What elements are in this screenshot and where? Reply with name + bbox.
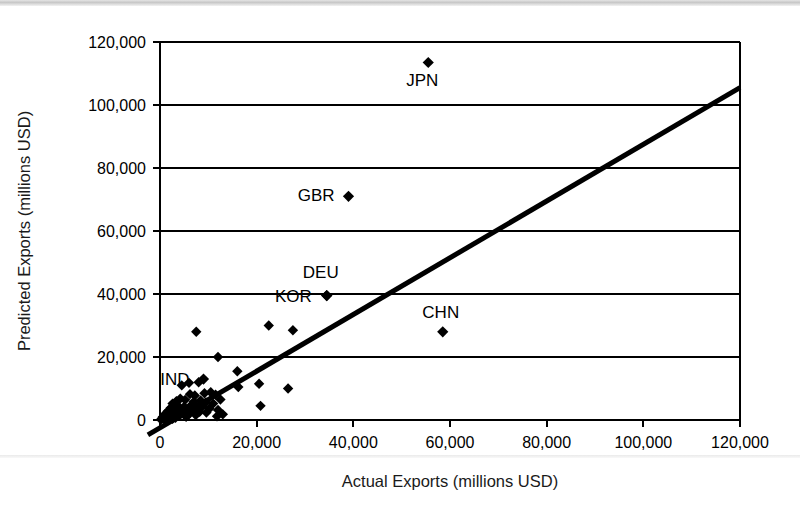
- axis-ticks: [153, 42, 740, 427]
- data-point-marker: [191, 327, 201, 337]
- point-label-jpn: JPN: [406, 71, 438, 90]
- data-point-marker: [264, 320, 274, 330]
- y-tick-label: 100,000: [88, 97, 146, 114]
- y-tick-label: 0: [137, 412, 146, 429]
- y-tick-label: 20,000: [97, 349, 146, 366]
- x-tick-label: 0: [156, 434, 165, 451]
- point-label-kor: KOR: [275, 287, 312, 306]
- regression-trendline: [148, 88, 740, 435]
- data-point-marker: [288, 325, 298, 335]
- y-tick-label: 40,000: [97, 286, 146, 303]
- x-tick-label: 100,000: [614, 434, 672, 451]
- y-axis-title: Predicted Exports (millions USD): [15, 111, 33, 351]
- data-point-marker: [213, 352, 223, 362]
- x-tick-label: 20,000: [232, 434, 281, 451]
- point-label-deu: DEU: [303, 263, 339, 282]
- point-label-ind: IND: [160, 370, 189, 389]
- scan-artifact-bottom: [0, 455, 800, 458]
- y-tick-label: 60,000: [97, 223, 146, 240]
- x-tick-label: 120,000: [711, 434, 769, 451]
- y-tick-label: 120,000: [88, 34, 146, 51]
- data-point-marker: [423, 57, 434, 68]
- data-point-marker: [321, 290, 332, 301]
- chart-canvas: JPNGBRDEUKORCHNIND 020,00040,00060,00080…: [0, 0, 800, 529]
- y-axis-tick-labels: 020,00040,00060,00080,000100,000120,000: [88, 34, 146, 429]
- point-label-chn: CHN: [422, 303, 459, 322]
- x-tick-label: 80,000: [522, 434, 571, 451]
- y-tick-label: 80,000: [97, 160, 146, 177]
- data-point-marker: [232, 366, 242, 376]
- x-tick-label: 60,000: [426, 434, 475, 451]
- x-tick-label: 40,000: [329, 434, 378, 451]
- scan-artifact-top: [0, 0, 800, 6]
- point-label-gbr: GBR: [298, 186, 335, 205]
- data-point-marker: [343, 191, 354, 202]
- x-axis-tick-labels: 020,00040,00060,00080,000100,000120,000: [156, 434, 769, 451]
- scatter-chart-figure: JPNGBRDEUKORCHNIND 020,00040,00060,00080…: [0, 0, 800, 529]
- x-axis-title: Actual Exports (millions USD): [342, 472, 558, 490]
- data-point-marker: [254, 379, 264, 389]
- data-point-marker: [255, 401, 265, 411]
- data-point-marker: [437, 326, 448, 337]
- data-point-markers: [156, 57, 449, 425]
- data-point-marker: [283, 383, 293, 393]
